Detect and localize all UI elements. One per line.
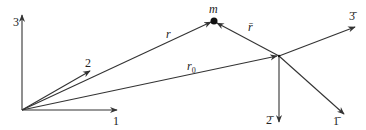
axis-1-bar-arrow [279, 56, 344, 114]
axis-1-bar-label: 1̄ [333, 114, 341, 128]
body-frame-origin [278, 55, 280, 57]
axis-1-label: 1 [113, 114, 119, 128]
axis-2-bar-label: 2̄ [266, 113, 274, 127]
mass-point-label: m [209, 2, 218, 16]
axis-2-label: 2 [85, 56, 91, 70]
axis-2-arrow [22, 71, 90, 110]
axis-3-bar-arrow [279, 27, 355, 56]
axis-3-label: 3 [13, 15, 19, 29]
vector-r-arrow [22, 22, 211, 110]
vector-r0-arrow [22, 56, 277, 110]
mass-point [211, 18, 218, 25]
vector-r-bar-label: r̄ [248, 20, 253, 34]
axis-3-bar-label: 3̄ [349, 9, 357, 23]
vector-r0-label: r0 [187, 59, 196, 75]
frames-diagram: 1231̄2̄3̄rr0r̄m [0, 0, 366, 130]
vector-r-label: r [166, 27, 171, 41]
